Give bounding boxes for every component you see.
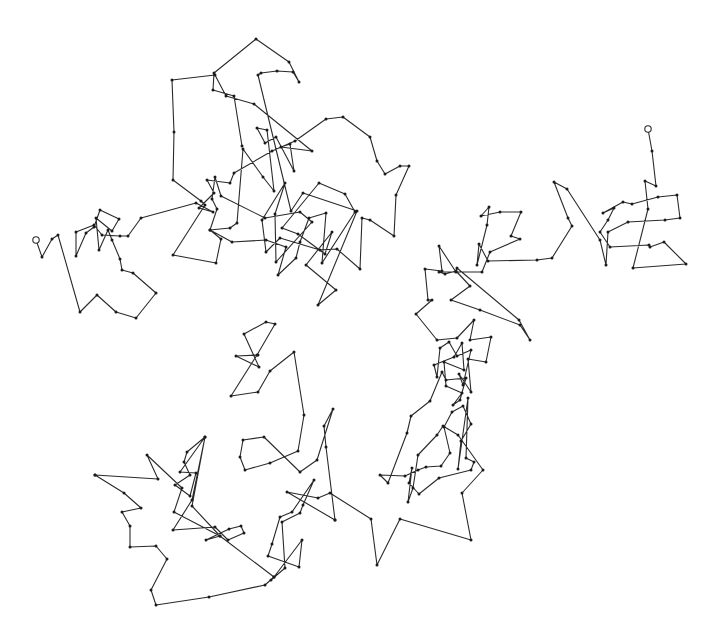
walk-vertex	[274, 323, 277, 326]
walk-vertex	[651, 150, 654, 153]
walk-vertex	[318, 182, 321, 185]
walk-vertex	[408, 165, 411, 168]
walk-vertex	[216, 208, 219, 211]
random-walk-diagram	[0, 0, 708, 624]
walk-vertex	[655, 185, 658, 188]
walk-vertex	[239, 456, 242, 459]
walk-vertex	[311, 150, 314, 153]
walk-vertex	[393, 235, 396, 238]
walk-vertex	[482, 469, 485, 472]
walk-vertex	[198, 207, 201, 210]
walk-vertex	[242, 148, 245, 151]
walk-vertex	[173, 511, 176, 514]
walk-vertex	[487, 260, 490, 263]
walk-vertex	[290, 210, 293, 213]
walk-vertex	[425, 466, 428, 469]
walk-vertex	[129, 546, 132, 549]
walk-vertex	[470, 469, 473, 472]
walk-vertex	[280, 146, 283, 149]
walk-vertex	[264, 584, 267, 587]
walk-vertex	[214, 176, 217, 179]
walk-vertex	[41, 256, 44, 259]
walk-vertex	[93, 224, 96, 227]
walk-vertex	[206, 179, 209, 182]
walk-vertex	[460, 440, 463, 443]
walk-vertex	[436, 376, 439, 379]
walk-vertex	[288, 61, 291, 64]
walk-vertex	[334, 519, 337, 522]
walk-vertex	[220, 195, 223, 198]
walk-vertex	[127, 235, 130, 238]
walk-vertex	[227, 539, 230, 542]
walk-vertex	[271, 150, 274, 153]
walk-vertex	[119, 235, 122, 238]
walk-vertex	[79, 311, 82, 314]
walk-vertex	[204, 204, 207, 207]
walk-vertex	[241, 145, 244, 148]
walk-vertex	[281, 521, 284, 524]
walk-vertex	[297, 450, 300, 453]
walk-vertex	[647, 208, 650, 211]
walk-vertex	[155, 604, 158, 607]
walk-vertex	[220, 238, 223, 241]
walk-vertex	[253, 103, 256, 106]
walk-vertex	[478, 243, 481, 246]
walk-vertex	[299, 241, 302, 244]
walk-vertex	[605, 264, 608, 267]
start-point-marker	[33, 237, 39, 243]
walk-vertex	[431, 299, 434, 302]
walk-vertex	[410, 415, 413, 418]
walk-vertex	[457, 468, 460, 471]
walk-vertex	[480, 215, 483, 218]
walk-vertex	[387, 482, 390, 485]
walk-vertex	[51, 238, 54, 241]
walk-path	[36, 39, 686, 605]
walk-vertex	[359, 268, 362, 271]
walk-vertex	[273, 190, 276, 193]
walk-vertex	[257, 74, 260, 77]
walk-vertex	[479, 309, 482, 312]
walk-vertex	[213, 72, 216, 75]
walk-vertex	[462, 384, 465, 387]
walk-vertex	[115, 311, 118, 314]
walk-vertex	[265, 251, 268, 254]
walk-vertex	[456, 355, 459, 358]
walk-vertex	[470, 539, 473, 542]
walk-segment	[36, 39, 409, 318]
walk-vertex	[455, 271, 458, 274]
walk-vertex	[441, 270, 444, 273]
walk-vertex	[356, 210, 359, 213]
walk-vertex	[275, 261, 278, 264]
walk-vertex	[229, 182, 232, 185]
walk-vertex	[195, 472, 198, 475]
walk-vertex	[243, 333, 246, 336]
walk-vertex	[299, 512, 302, 515]
walk-vertex	[648, 244, 651, 247]
walk-vertex	[235, 355, 238, 358]
walk-vertex	[101, 234, 104, 237]
walk-vertex	[443, 361, 446, 364]
walk-vertex	[473, 461, 476, 464]
walk-vertex	[258, 366, 261, 369]
walk-vertex	[230, 395, 233, 398]
walk-vertex	[429, 400, 432, 403]
walk-vertex	[436, 339, 439, 342]
walk-vertex	[412, 487, 415, 490]
walk-vertex	[439, 347, 442, 350]
walk-vertex	[518, 319, 521, 322]
walk-vertex	[445, 379, 448, 382]
walk-vertex	[118, 218, 121, 221]
walk-vertex	[261, 219, 264, 222]
walk-vertex	[316, 459, 319, 462]
walk-vertex	[599, 231, 602, 234]
walk-vertex	[510, 235, 513, 238]
walk-vertex	[324, 253, 327, 256]
walk-vertex	[263, 436, 266, 439]
walk-vertex	[271, 543, 274, 546]
walk-vertex	[231, 241, 234, 244]
walk-vertex	[406, 432, 409, 435]
walk-vertex	[285, 246, 288, 249]
walk-vertex	[233, 95, 236, 98]
walk-vertex	[265, 321, 268, 324]
walk-vertex	[240, 525, 243, 528]
